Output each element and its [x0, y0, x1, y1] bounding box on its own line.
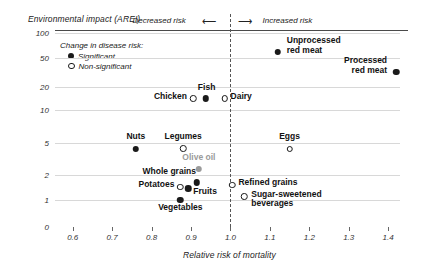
filled-circle-icon [275, 49, 282, 56]
point-label-processed-red-meat: Processedred meat [344, 56, 387, 75]
y-tick-label: 5 [23, 139, 49, 148]
point-label-sugar-sweetened-beverages: Sugar-sweetenedbeverages [251, 189, 321, 208]
gridline [55, 33, 400, 34]
point-label-fruits: Fruits [193, 187, 217, 197]
x-tick-label: 1.4 [383, 233, 394, 242]
plot-area: 1005020105210 0.60.70.80.91.01.11.21.31.… [55, 30, 400, 227]
point-label-fish: Fish [198, 83, 215, 93]
point-label-whole-grains: Whole grains [143, 167, 196, 177]
x-tick [349, 227, 350, 231]
x-tick [230, 227, 231, 231]
y-tick-label: 20 [23, 83, 49, 92]
x-tick [112, 227, 113, 231]
data-point-fruits[interactable] [185, 178, 192, 196]
point-label-olive-oil: Olive oil [182, 153, 215, 163]
y-tick-label: 10 [23, 106, 49, 115]
arrow-left-icon: ⟵ [202, 17, 216, 27]
x-tick [270, 227, 271, 231]
y-tick-label: 0 [23, 223, 49, 232]
filled-circle-icon [393, 69, 400, 76]
y-tick-label: 100 [23, 29, 49, 38]
point-label-potatoes: Potatoes [138, 181, 174, 191]
x-axis-title: Relative risk of mortality [183, 250, 276, 260]
open-circle-icon [180, 145, 187, 152]
x-tick-label: 0.8 [146, 233, 157, 242]
gridline [55, 143, 400, 144]
point-label-eggs: Eggs [279, 133, 300, 143]
filled-circle-icon [185, 185, 192, 192]
data-point-refined-grains[interactable] [229, 174, 236, 192]
reference-line-x1 [230, 14, 231, 227]
point-label-unprocessed-red-meat: Unprocessedred meat [287, 36, 341, 55]
y-tick-label: 1 [23, 196, 49, 205]
x-axis-line [55, 30, 408, 31]
open-circle-icon [241, 193, 248, 200]
filled-circle-icon [202, 95, 209, 102]
x-tick-label: 0.6 [67, 233, 78, 242]
y-tick-label: 2 [23, 171, 49, 180]
open-circle-icon [229, 182, 236, 189]
arrow-right-icon: ⟶ [238, 17, 252, 27]
gridline [55, 175, 400, 176]
open-circle-icon [190, 95, 197, 102]
chart-container: Environmental impact (AREI) Relative ris… [0, 0, 430, 273]
point-label-legumes: Legumes [164, 132, 201, 142]
open-circle-icon [221, 95, 228, 102]
y-tick-label: 50 [23, 54, 49, 63]
data-point-chicken[interactable] [190, 88, 197, 106]
x-tick [152, 227, 153, 231]
data-point-sugar-sweetened-beverages[interactable] [241, 186, 248, 204]
x-tick [191, 227, 192, 231]
point-label-nuts: Nuts [126, 133, 145, 143]
x-tick [73, 227, 74, 231]
open-circle-icon [286, 146, 293, 153]
data-point-unprocessed-red-meat[interactable] [275, 41, 282, 59]
point-label-chicken: Chicken [154, 92, 187, 102]
data-point-processed-red-meat[interactable] [393, 61, 400, 79]
x-tick-label: 0.9 [185, 233, 196, 242]
point-label-vegetables: Vegetables [158, 203, 202, 213]
point-label-dairy: Dairy [231, 92, 252, 102]
annotation-increased-risk: Increased risk [262, 16, 312, 25]
data-point-dairy[interactable] [221, 88, 228, 106]
x-tick-label: 0.7 [107, 233, 118, 242]
x-tick [388, 227, 389, 231]
gridline [55, 200, 400, 201]
x-tick [309, 227, 310, 231]
x-tick-label: 1.2 [304, 233, 315, 242]
y-axis-title: Environmental impact (AREI) [28, 14, 140, 24]
x-tick-label: 1.1 [264, 233, 275, 242]
x-tick-label: 1.0 [225, 233, 236, 242]
filled-circle-icon [133, 146, 140, 153]
x-tick-label: 1.3 [343, 233, 354, 242]
gridline [55, 110, 400, 111]
annotation-decreased-risk: Decreased risk [132, 16, 185, 25]
